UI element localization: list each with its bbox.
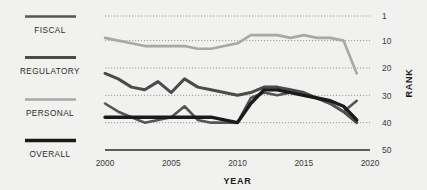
gridlines	[105, 16, 370, 123]
svg-text:2015: 2015	[294, 158, 313, 168]
svg-text:2010: 2010	[228, 158, 247, 168]
svg-text:2005: 2005	[162, 158, 181, 168]
svg-text:2000: 2000	[96, 158, 115, 168]
svg-text:10: 10	[382, 36, 392, 46]
svg-text:50: 50	[382, 145, 392, 155]
plot-area: 11020304050 20002005201020152020 RANK YE…	[0, 0, 427, 190]
svg-text:40: 40	[382, 118, 392, 128]
svg-text:1: 1	[382, 11, 387, 21]
svg-text:30: 30	[382, 91, 392, 101]
rank-by-year-chart: FISCAL REGULATORY PERSONAL	[0, 0, 427, 190]
y-axis-title: RANK	[404, 69, 414, 98]
x-tick-labels: 20002005201020152020	[96, 158, 380, 168]
x-axis-title: YEAR	[224, 176, 252, 186]
svg-text:2020: 2020	[361, 158, 380, 168]
plot-svg: 11020304050 20002005201020152020 RANK YE…	[0, 0, 427, 190]
y-tick-labels: 11020304050	[382, 11, 392, 155]
svg-text:20: 20	[382, 63, 392, 73]
data-series	[105, 35, 357, 123]
